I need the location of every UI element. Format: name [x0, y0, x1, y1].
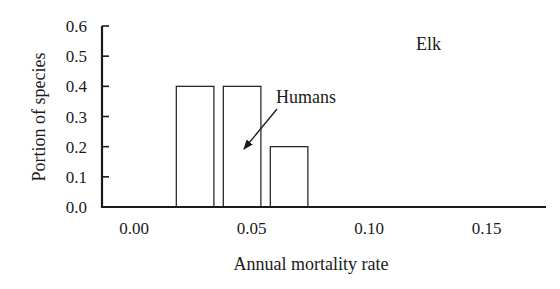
y-tick-label: 0.4	[66, 77, 88, 96]
y-tick-label: 0.3	[66, 108, 87, 127]
y-tick-label: 0.0	[66, 198, 87, 217]
annotation-humans-label: Humans	[276, 87, 336, 107]
y-axis-title: Portion of species	[29, 53, 49, 182]
y-tick-label: 0.2	[66, 138, 87, 157]
histogram-bar-3	[270, 147, 308, 207]
x-tick-label: 0.05	[237, 219, 267, 238]
x-tick-label: 0.10	[354, 219, 384, 238]
x-tick-label: 0.00	[119, 219, 149, 238]
panel-label-elk: Elk	[416, 34, 441, 54]
y-tick-label: 0.6	[66, 17, 87, 36]
x-axis-title: Annual mortality rate	[234, 254, 389, 274]
y-axis: 0.00.10.20.30.40.50.6	[66, 17, 109, 217]
x-axis: 0.000.050.100.15	[101, 207, 546, 238]
y-tick-label: 0.1	[66, 168, 87, 187]
x-tick-label: 0.15	[472, 219, 502, 238]
histogram-chart: 0.00.10.20.30.40.50.6 0.000.050.100.15 P…	[0, 0, 560, 289]
histogram-bar-2	[223, 86, 261, 207]
histogram-bar-1	[176, 86, 214, 207]
y-tick-label: 0.5	[66, 47, 87, 66]
